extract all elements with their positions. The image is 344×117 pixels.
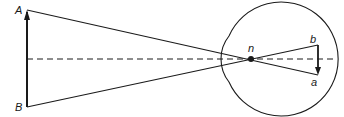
ray-B-to-b — [27, 45, 318, 107]
label-n: n — [248, 42, 254, 54]
object-arrowhead-icon — [24, 10, 30, 20]
nodal-point — [248, 56, 254, 62]
eye-image-formation-diagram: A B n b a — [0, 0, 344, 117]
label-B: B — [15, 101, 22, 113]
label-b: b — [310, 33, 316, 45]
label-a: a — [311, 76, 317, 88]
label-A: A — [14, 4, 22, 16]
image-arrowhead-icon — [315, 67, 321, 75]
ray-A-to-a — [27, 10, 318, 75]
